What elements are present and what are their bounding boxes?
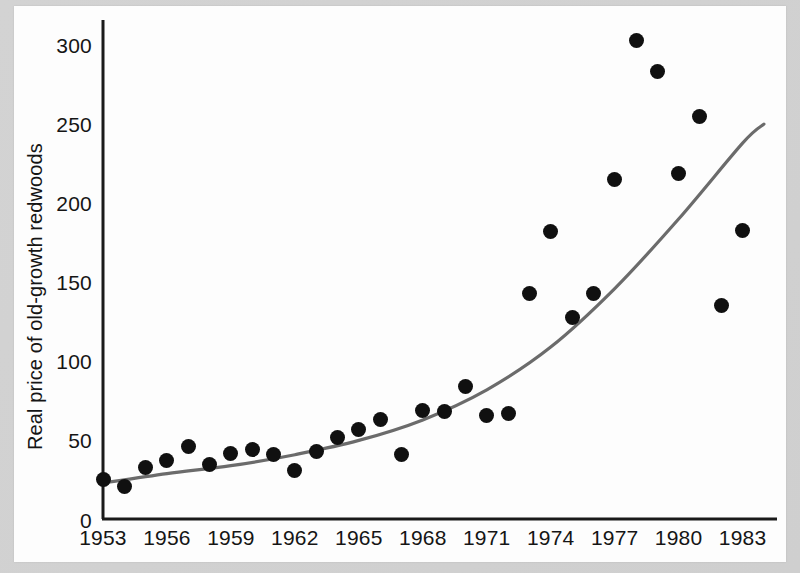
y-axis-tick-label: 250 (40, 114, 92, 135)
x-axis-tick-label: 1959 (207, 527, 255, 548)
y-axis-tick-label: 200 (40, 193, 92, 214)
x-axis-tick-label: 1968 (399, 527, 447, 548)
x-axis-tick-label: 1974 (527, 527, 575, 548)
x-axis-tick-label: 1953 (79, 527, 127, 548)
figure-root: 0501001502002503001953195619591962196519… (0, 0, 800, 573)
y-axis-tick-label: 50 (40, 430, 92, 451)
x-axis-tick-label: 1980 (655, 527, 703, 548)
x-axis-tick-label: 1956 (143, 527, 191, 548)
x-axis-tick-label: 1983 (719, 527, 767, 548)
y-axis-title: Real price of old-growth redwoods (24, 143, 47, 450)
x-axis-tick-label: 1971 (463, 527, 511, 548)
axis-labels-layer: 0501001502002503001953195619591962196519… (0, 0, 800, 573)
y-axis-tick-label: 300 (40, 34, 92, 55)
x-axis-tick-label: 1962 (271, 527, 319, 548)
y-axis-tick-label: 150 (40, 272, 92, 293)
x-axis-tick-label: 1977 (591, 527, 639, 548)
x-axis-tick-label: 1965 (335, 527, 383, 548)
y-axis-tick-label: 100 (40, 351, 92, 372)
